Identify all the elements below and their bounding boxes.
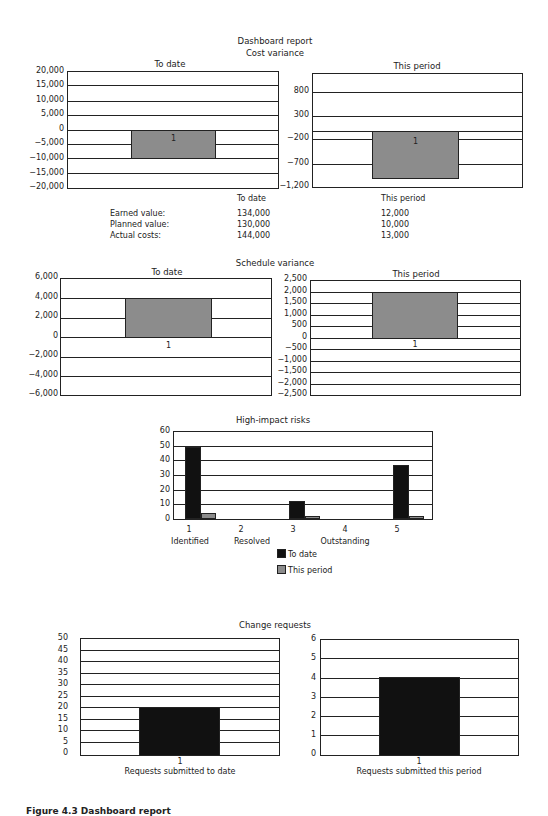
category-label-resolved: Resolved (222, 537, 282, 546)
y-tick: 20 (40, 702, 68, 712)
bar-category-label: 1 (372, 137, 459, 146)
y-tick: −2,500 (262, 389, 307, 399)
y-tick: −15,000 (0, 168, 64, 178)
y-tick: 40 (40, 656, 68, 666)
plot-area: 1 (60, 278, 272, 396)
y-tick: 0 (300, 749, 316, 759)
x-axis-label: Requests submitted to date (100, 767, 260, 776)
legend-swatch-to-date (277, 549, 286, 558)
y-tick: 1,500 (262, 297, 307, 307)
y-tick: 5 (300, 653, 316, 663)
y-tick: −1,500 (262, 366, 307, 376)
x-tick: 4 (337, 525, 353, 534)
col-header-this-period: This period (381, 194, 425, 203)
legend-item-to-date: To date (277, 549, 317, 559)
y-tick: −20,000 (0, 182, 64, 192)
y-tick: 10,000 (0, 95, 64, 105)
legend-swatch-this-period (277, 565, 286, 574)
y-tick: 10 (140, 499, 170, 509)
legend-label: This period (288, 566, 332, 575)
y-tick: −5,000 (0, 138, 64, 148)
y-tick: 1 (300, 730, 316, 740)
row-this-period-value: 12,000 (381, 209, 409, 218)
y-tick: 15 (40, 714, 68, 724)
y-tick: 60 (140, 426, 170, 436)
y-tick: 6 (300, 634, 316, 644)
report-title: Dashboard report (175, 36, 375, 46)
y-tick: 4 (300, 673, 316, 683)
bar-category-label: 1 (125, 341, 212, 350)
chart-title: To date (107, 267, 227, 277)
x-tick: 1 (181, 525, 197, 534)
y-tick: 40 (140, 455, 170, 465)
y-tick: 0 (0, 124, 64, 134)
cost-variance-title: Cost variance (175, 48, 375, 58)
x-tick: 2 (233, 525, 249, 534)
bar-to-date-cat5 (393, 465, 409, 519)
y-tick: 2,000 (0, 311, 58, 321)
y-tick: 10 (40, 725, 68, 735)
change-requests-title: Change requests (175, 620, 375, 630)
plot-area (320, 639, 519, 756)
bar-to-date-cat1 (185, 447, 201, 519)
y-tick: 20,000 (0, 66, 64, 76)
row-to-date-value: 130,000 (237, 220, 270, 229)
x-tick: 5 (389, 525, 405, 534)
row-this-period-value: 13,000 (381, 231, 409, 240)
y-tick: 6,000 (0, 272, 58, 282)
y-tick: 1,000 (262, 309, 307, 319)
y-tick: −2,000 (262, 378, 307, 388)
row-label: Actual costs: (110, 231, 161, 240)
y-tick: −1,000 (262, 355, 307, 365)
category-label-identified: Identified (160, 537, 220, 546)
y-tick: −4,000 (0, 370, 58, 380)
y-tick: −200 (270, 133, 309, 143)
y-tick: 50 (140, 441, 170, 451)
row-to-date-value: 134,000 (237, 209, 270, 218)
y-tick: −500 (262, 343, 307, 353)
bar-category-label: 1 (372, 340, 458, 349)
y-tick: 30 (40, 679, 68, 689)
y-tick: 30 (140, 470, 170, 480)
variance-bar (372, 292, 458, 339)
plot-area (80, 638, 280, 756)
bar-category-label: 1 (131, 134, 216, 143)
y-tick: −700 (270, 158, 309, 168)
plot-area (173, 431, 433, 520)
plot-area: 1 (310, 280, 521, 396)
y-tick: 2,000 (262, 286, 307, 296)
y-tick: 3 (300, 692, 316, 702)
figure-caption: Figure 4.3 Dashboard report (26, 806, 171, 816)
bar-this-period-cat3 (305, 516, 320, 519)
legend-item-this-period: This period (277, 565, 332, 575)
requests-bar (379, 677, 460, 756)
y-tick: 2,500 (262, 274, 307, 284)
row-this-period-value: 10,000 (381, 220, 409, 229)
chart-title: This period (357, 61, 477, 71)
plot-area: 1 (312, 73, 523, 188)
row-label: Planned value: (110, 220, 169, 229)
y-tick: −1,200 (264, 181, 309, 191)
y-tick: 25 (40, 691, 68, 701)
x-axis-label: Requests submitted this period (339, 767, 499, 776)
chart-title: This period (356, 269, 476, 279)
bar-this-period-cat5 (409, 516, 424, 519)
y-tick: 500 (262, 320, 307, 330)
y-tick: −6,000 (0, 389, 58, 399)
x-tick: 1 (409, 757, 429, 766)
bar-to-date-cat3 (289, 501, 305, 519)
requests-bar (139, 707, 220, 756)
y-tick: −2,000 (0, 350, 58, 360)
row-to-date-value: 144,000 (237, 231, 270, 240)
y-tick: 2 (300, 711, 316, 721)
variance-bar (125, 298, 212, 338)
y-tick: 0 (0, 331, 58, 341)
bar-this-period-cat1 (201, 513, 216, 519)
y-tick: 4,000 (0, 292, 58, 302)
y-tick: 5 (40, 737, 68, 747)
y-tick: 800 (270, 86, 309, 96)
y-tick: 0 (140, 514, 170, 524)
plot-area: 1 (67, 71, 279, 189)
chart-title: High-impact risks (203, 415, 343, 425)
chart-title: To date (110, 59, 230, 69)
